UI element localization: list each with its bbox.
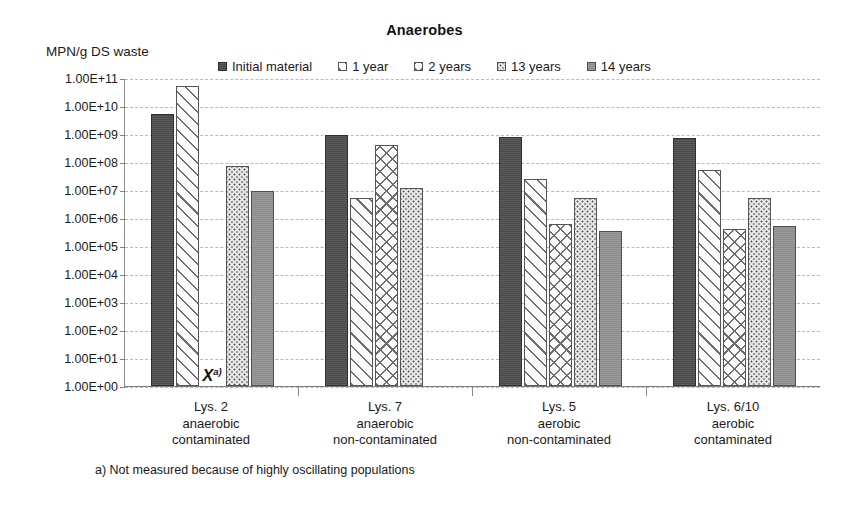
y-axis-tick	[120, 191, 125, 192]
y-axis-tick-label: 1.00E+06	[64, 212, 118, 226]
x-axis-label-lys-7-anaerobic-non-contaminated: Lys. 7anaerobicnon-contaminated	[298, 399, 472, 449]
bar-lys-6-10-aerobic-contaminated-13-years[interactable]	[748, 198, 771, 386]
gridline	[125, 163, 820, 164]
legend-label-2-years: 2 years	[428, 60, 471, 73]
x-axis-label-lys-6-10-aerobic-contaminated: Lys. 6/10aerobiccontaminated	[646, 399, 820, 449]
legend-swatch-13-years	[497, 62, 506, 71]
x-axis-label-line: Lys. 6/10	[646, 399, 820, 416]
y-axis-tick-label: 1.00E+07	[64, 184, 118, 198]
bar-lys-2-anaerobic-contaminated-1-year[interactable]	[176, 86, 199, 386]
plot-area: Xa)	[124, 79, 820, 387]
x-axis-label-line: non-contaminated	[472, 432, 646, 449]
legend-label-1-year: 1 year	[352, 60, 388, 73]
y-axis-tick	[120, 135, 125, 136]
legend-swatch-2-years	[414, 62, 423, 71]
bar-lys-2-anaerobic-contaminated-14-years[interactable]	[251, 191, 274, 386]
missing-data-label: X	[203, 367, 214, 384]
y-axis-tick	[120, 303, 125, 304]
y-axis-tick-label: 1.00E+00	[64, 380, 118, 394]
gridline	[125, 135, 820, 136]
legend-item-2-years[interactable]: 2 years	[414, 60, 471, 73]
bar-lys-6-10-aerobic-contaminated-initial-material[interactable]	[673, 138, 696, 386]
legend-item-1-year[interactable]: 1 year	[338, 60, 388, 73]
bar-lys-2-anaerobic-contaminated-initial-material[interactable]	[151, 114, 174, 386]
gridline	[125, 107, 820, 108]
missing-data-marker: Xa)	[203, 364, 222, 384]
bar-lys-7-anaerobic-non-contaminated-2-years[interactable]	[375, 145, 398, 386]
legend-item-14-years[interactable]: 14 years	[587, 60, 651, 73]
y-axis-tick-label: 1.00E+05	[64, 240, 118, 254]
y-axis-tick-label: 1.00E+09	[64, 128, 118, 142]
bar-lys-6-10-aerobic-contaminated-1-year[interactable]	[698, 170, 721, 386]
legend-swatch-1-year	[338, 62, 347, 71]
x-axis-label-line: anaerobic	[298, 416, 472, 433]
bar-lys-7-anaerobic-non-contaminated-13-years[interactable]	[400, 188, 423, 386]
y-axis-tick	[120, 219, 125, 220]
y-axis-tick	[120, 79, 125, 80]
x-axis-label-line: contaminated	[124, 432, 298, 449]
bar-lys-5-aerobic-non-contaminated-1-year[interactable]	[524, 179, 547, 386]
legend-item-initial-material[interactable]: Initial material	[218, 60, 312, 73]
x-axis-label-lys-2-anaerobic-contaminated: Lys. 2anaerobiccontaminated	[124, 399, 298, 449]
x-axis-category-separator	[646, 387, 647, 396]
y-axis-unit-label: MPN/g DS waste	[46, 44, 149, 59]
x-axis-label-lys-5-aerobic-non-contaminated: Lys. 5aerobicnon-contaminated	[472, 399, 646, 449]
bar-lys-2-anaerobic-contaminated-13-years[interactable]	[226, 166, 249, 386]
x-axis-label-line: Lys. 2	[124, 399, 298, 416]
legend-label-14-years: 14 years	[601, 60, 651, 73]
chart-title: Anaerobes	[0, 22, 849, 38]
y-axis-tick	[120, 331, 125, 332]
legend-label-13-years: 13 years	[511, 60, 561, 73]
y-axis-tick	[120, 247, 125, 248]
bar-lys-7-anaerobic-non-contaminated-initial-material[interactable]	[325, 135, 348, 386]
y-axis-tick	[120, 359, 125, 360]
bar-lys-6-10-aerobic-contaminated-14-years[interactable]	[773, 226, 796, 386]
legend-swatch-14-years	[587, 62, 596, 71]
legend-label-initial-material: Initial material	[232, 60, 312, 73]
x-axis-category-separator	[472, 387, 473, 396]
footnote: a) Not measured because of highly oscill…	[95, 463, 415, 477]
y-axis-tick	[120, 107, 125, 108]
y-axis-tick-labels: 1.00E+111.00E+101.00E+091.00E+081.00E+07…	[0, 79, 124, 387]
x-axis-label-line: Lys. 5	[472, 399, 646, 416]
y-axis-tick-label: 1.00E+08	[64, 156, 118, 170]
x-axis-label-line: aerobic	[472, 416, 646, 433]
bar-lys-5-aerobic-non-contaminated-13-years[interactable]	[574, 198, 597, 386]
x-axis-label-line: aerobic	[646, 416, 820, 433]
legend-swatch-initial-material	[218, 62, 227, 71]
missing-data-superscript: a)	[213, 366, 221, 377]
y-axis-tick-label: 1.00E+11	[65, 72, 118, 86]
y-axis-tick-label: 1.00E+01	[64, 352, 118, 366]
chart-figure: Anaerobes MPN/g DS waste Initial materia…	[0, 0, 849, 511]
y-axis-tick-label: 1.00E+10	[64, 100, 118, 114]
y-axis-tick-label: 1.00E+03	[64, 296, 118, 310]
y-axis-tick-label: 1.00E+04	[64, 268, 118, 282]
x-axis-label-line: anaerobic	[124, 416, 298, 433]
legend-item-13-years[interactable]: 13 years	[497, 60, 561, 73]
y-axis-tick	[120, 163, 125, 164]
bar-lys-6-10-aerobic-contaminated-2-years[interactable]	[723, 229, 746, 386]
bar-lys-5-aerobic-non-contaminated-2-years[interactable]	[549, 224, 572, 386]
chart-legend: Initial material1 year2 years13 years14 …	[218, 58, 651, 74]
x-axis-label-line: contaminated	[646, 432, 820, 449]
bar-lys-5-aerobic-non-contaminated-initial-material[interactable]	[499, 137, 522, 386]
x-axis-category-separator	[298, 387, 299, 396]
gridline	[125, 79, 820, 80]
x-axis-label-line: non-contaminated	[298, 432, 472, 449]
bar-lys-7-anaerobic-non-contaminated-1-year[interactable]	[350, 198, 373, 386]
y-axis-tick-label: 1.00E+02	[64, 324, 118, 338]
y-axis-tick	[120, 387, 125, 388]
y-axis-tick	[120, 275, 125, 276]
bar-lys-5-aerobic-non-contaminated-14-years[interactable]	[599, 231, 622, 386]
x-axis-label-line: Lys. 7	[298, 399, 472, 416]
